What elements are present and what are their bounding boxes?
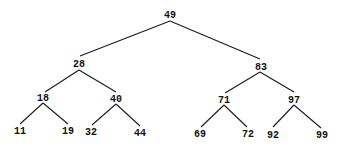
- tree-edge-97-99: [294, 105, 321, 128]
- tree-edge-40-44: [116, 104, 140, 126]
- tree-edge-40-32: [92, 104, 116, 125]
- tree-node-92: 92: [267, 130, 279, 141]
- tree-nodes: 492883184071971119324469729299: [14, 10, 328, 141]
- tree-edge-28-18: [45, 70, 79, 92]
- tree-node-28: 28: [73, 59, 85, 70]
- tree-node-18: 18: [37, 93, 49, 104]
- tree-edge-18-11: [20, 103, 43, 124]
- tree-node-32: 32: [85, 127, 97, 138]
- tree-node-69: 69: [194, 129, 206, 140]
- tree-edge-83-97: [260, 72, 294, 92]
- tree-node-83: 83: [255, 62, 267, 73]
- tree-edge-83-71: [225, 72, 260, 93]
- binary-tree-diagram: 492883184071971119324469729299: [0, 0, 342, 147]
- tree-node-44: 44: [134, 128, 146, 139]
- tree-edge-71-72: [224, 105, 247, 127]
- tree-edge-97-92: [273, 105, 294, 127]
- tree-node-72: 72: [242, 129, 254, 140]
- tree-edges: [20, 21, 321, 128]
- tree-edge-49-83: [170, 21, 260, 59]
- tree-edge-49-28: [80, 21, 170, 56]
- tree-node-19: 19: [62, 126, 74, 137]
- tree-node-71: 71: [218, 95, 230, 106]
- tree-node-11: 11: [14, 126, 26, 137]
- tree-node-99: 99: [316, 130, 328, 141]
- tree-node-97: 97: [288, 95, 300, 106]
- tree-edge-28-40: [79, 70, 116, 92]
- tree-edge-71-69: [201, 105, 224, 127]
- tree-node-40: 40: [110, 94, 122, 105]
- tree-edge-18-19: [43, 103, 68, 124]
- tree-node-49: 49: [164, 10, 176, 21]
